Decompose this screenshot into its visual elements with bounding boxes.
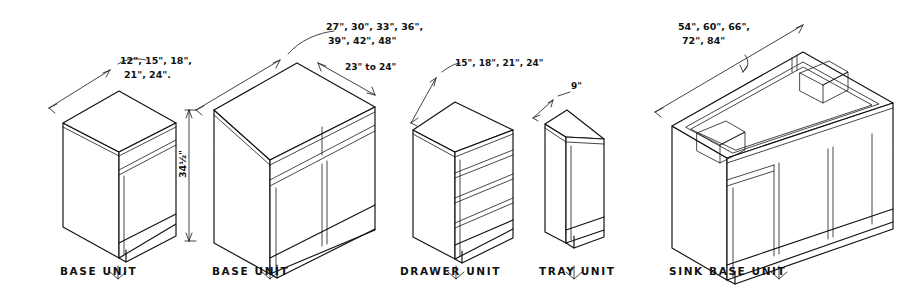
unit-base-unit-wide: 27", 30", 33", 36", 39", 42", 48" 23" to… <box>196 21 423 279</box>
unit-tray-unit: 9" TRAY UNIT <box>533 81 615 279</box>
width-label-5-line2: 72", 84" <box>682 35 725 46</box>
height-dimension-34-5: 34½" <box>177 110 196 241</box>
caption-tray-unit: TRAY UNIT <box>539 265 615 277</box>
width-label-3: 15", 18", 21", 24" <box>455 58 544 68</box>
cabinet-dimension-drawing: 12", 15", 18", 21", 24". BASE UNIT 34½" <box>0 0 922 295</box>
width-label-5-line1: 54", 60", 66", <box>678 21 750 32</box>
cabinet-front-4 <box>566 137 604 243</box>
width-label-2-line2: 39", 42", 48" <box>328 35 396 46</box>
height-label-34-5: 34½" <box>177 150 188 178</box>
caption-base-unit-small: BASE UNIT <box>60 265 137 277</box>
caption-sink-base-unit: SINK BASE UNIT <box>669 265 786 277</box>
unit-sink-base-unit: 54", 60", 66", 72", 84" SINK BASE UNIT <box>655 21 893 284</box>
caption-drawer-unit: DRAWER UNIT <box>400 265 501 277</box>
width-label-4: 9" <box>571 81 582 91</box>
width-label-1-line2: 21", 24". <box>124 69 171 80</box>
unit-base-unit-small: 12", 15", 18", 21", 24". BASE UNIT <box>49 55 192 279</box>
depth-label-2: 23" to 24" <box>345 62 396 72</box>
width-label-2-line1: 27", 30", 33", 36", <box>326 21 423 32</box>
unit-drawer-unit: 15", 18", 21", 24" DRAWER UNIT <box>400 58 544 279</box>
cabinet-left-side-4 <box>545 124 566 243</box>
cabinet-left-side-3 <box>413 130 455 259</box>
width-label-1-line1: 12", 15", 18", <box>120 55 192 66</box>
caption-base-unit-wide: BASE UNIT <box>212 265 289 277</box>
